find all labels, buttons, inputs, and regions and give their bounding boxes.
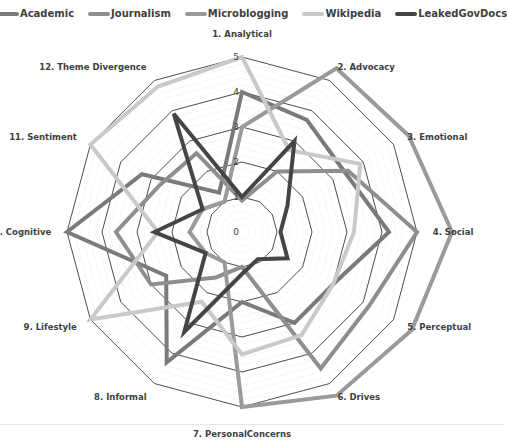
axis-label: 8. Informal xyxy=(94,392,147,402)
series-academic xyxy=(67,92,389,362)
minor-grid-ring xyxy=(109,99,375,365)
axis-label: 9. Lifestyle xyxy=(24,322,77,332)
axis-label: 7. PersonalConcerns xyxy=(193,429,291,439)
grid-ring xyxy=(207,197,277,267)
bottom-divider xyxy=(0,424,504,425)
tick-label: 4 xyxy=(233,87,239,97)
axis-label: 4. Social xyxy=(433,227,474,237)
minor-grid-ring xyxy=(207,197,277,267)
minor-grid-ring xyxy=(158,148,326,316)
tick-label: 3 xyxy=(233,122,239,132)
tick-label: 5 xyxy=(233,52,239,62)
minor-grid-ring xyxy=(228,218,256,246)
axis-label: 11. Sentiment xyxy=(9,132,77,142)
axis-label: 3. Emotional xyxy=(407,132,467,142)
minor-grid-ring xyxy=(214,204,270,260)
minor-grid-ring xyxy=(221,211,263,253)
radar-series xyxy=(67,57,452,407)
axis-label: 1. Analytical xyxy=(212,29,272,39)
axis-label: 12. Theme Divergence xyxy=(39,62,147,72)
tick-label: 0 xyxy=(233,227,239,237)
minor-grid-ring xyxy=(130,120,354,344)
tick-label: 1 xyxy=(233,192,239,202)
tick-label: 2 xyxy=(233,157,239,167)
axis-label: 6. Drives xyxy=(337,392,380,402)
series-wikipedia xyxy=(90,57,360,355)
axis-label: 2. Advocacy xyxy=(337,62,395,72)
axis-label: 10. Cognitive xyxy=(0,227,51,237)
axis-label: 5. Perceptual xyxy=(407,322,471,332)
minor-grid-ring xyxy=(88,78,396,386)
